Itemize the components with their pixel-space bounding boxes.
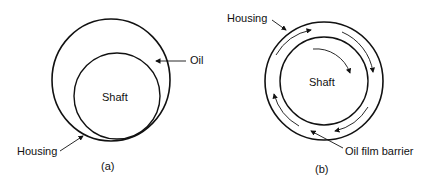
- housing-arrow-a: [60, 136, 83, 151]
- flow-arrow-bottom-left: [274, 94, 299, 126]
- oil-label: Oil: [190, 54, 203, 66]
- housing-label-a: Housing: [17, 145, 57, 157]
- diagram-graphics: [0, 0, 431, 186]
- caption-a: (a): [101, 160, 114, 172]
- shaft-label-a: Shaft: [102, 91, 128, 103]
- bearing-diagram: Shaft Oil Housing (a) Housing Shaft Oil …: [0, 0, 431, 186]
- flow-arrow-bottom-right: [335, 107, 368, 131]
- flow-arrow-top-left: [276, 30, 311, 55]
- caption-b: (b): [315, 163, 328, 175]
- shaft-rotation-arrow: [313, 49, 350, 73]
- panel-a-graphics: [52, 19, 186, 151]
- oil-film-barrier-label: Oil film barrier: [345, 145, 413, 157]
- housing-circle-a: [52, 19, 170, 141]
- shaft-label-b: Shaft: [309, 76, 335, 88]
- housing-label-b: Housing: [227, 12, 267, 24]
- housing-arrow-b: [272, 20, 286, 30]
